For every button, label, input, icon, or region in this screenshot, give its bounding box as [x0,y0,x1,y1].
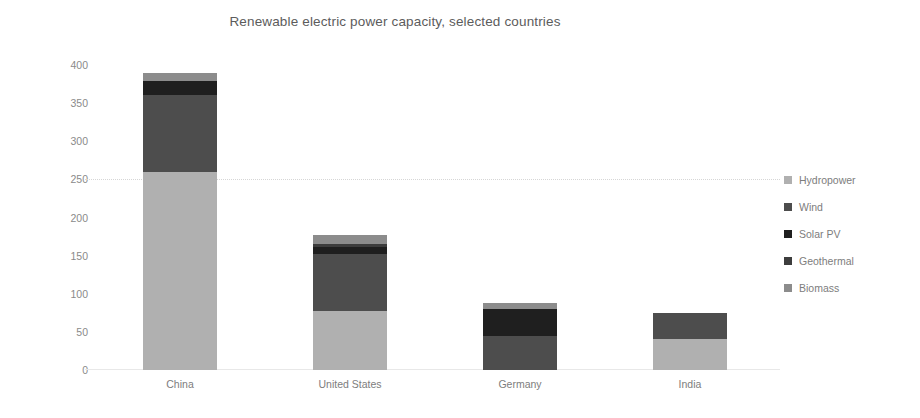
bar-segment[interactable] [143,172,217,370]
chart-screenshot: Renewable electric power capacity, selec… [0,0,920,418]
bar-segment[interactable] [143,95,217,172]
bar-segment[interactable] [313,254,387,310]
bar-stack[interactable] [143,73,217,370]
bar-stack[interactable] [483,303,557,370]
legend-item[interactable]: Hydropower [784,166,914,193]
legend-item-label: Solar PV [799,228,840,240]
x-axis-tick-label: United States [280,378,420,390]
y-axis: 400350300250200150100500 [40,65,88,370]
bar-stack[interactable] [653,313,727,370]
legend-swatch-icon [784,230,792,238]
legend-item[interactable]: Geothermal [784,247,914,274]
legend-item-label: Hydropower [799,174,856,186]
bar-segment[interactable] [483,309,557,336]
legend-item[interactable]: Solar PV [784,220,914,247]
legend-swatch-icon [784,203,792,211]
bar-segment[interactable] [143,73,217,81]
x-axis-tick-label: China [110,378,250,390]
bar-segment[interactable] [313,247,387,254]
x-axis-tick-label: India [620,378,760,390]
y-axis-tick-label: 0 [82,364,88,376]
legend-swatch-icon [784,257,792,265]
bar-stack[interactable] [313,235,387,370]
bar-segment[interactable] [653,339,727,370]
bar-segment[interactable] [313,235,387,244]
bar-segment[interactable] [653,313,727,339]
x-axis: ChinaUnited StatesGermanyIndia [95,378,775,398]
legend-item[interactable]: Wind [784,193,914,220]
x-axis-tick-label: Germany [450,378,590,390]
page-title: Renewable electric power capacity, selec… [0,14,790,29]
legend-swatch-icon [784,284,792,292]
legend-item[interactable]: Biomass [784,274,914,301]
legend-item-label: Wind [799,201,823,213]
plot-area [95,65,775,370]
legend-swatch-icon [784,176,792,184]
chart-legend: HydropowerWindSolar PVGeothermalBiomass [784,166,914,301]
legend-item-label: Geothermal [799,255,854,267]
bar-segment[interactable] [143,81,217,95]
bar-segment[interactable] [313,311,387,370]
bar-segment[interactable] [483,336,557,370]
legend-item-label: Biomass [799,282,839,294]
